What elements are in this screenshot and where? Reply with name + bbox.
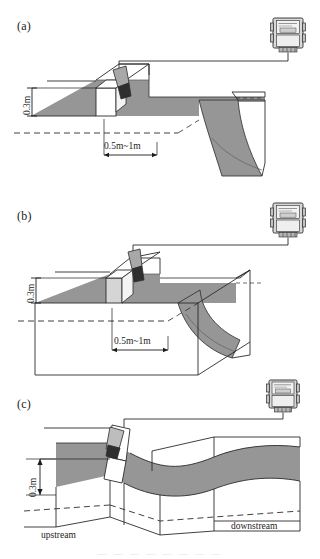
downstream-label: downstream [231, 521, 277, 531]
weir-notch-a [96, 88, 116, 116]
transmitter-meter-c [267, 380, 300, 412]
dimension-label-height-b: 0.3m [26, 284, 36, 303]
panel-a-drawing [0, 0, 320, 190]
channel-bed-dashed-c [24, 505, 110, 511]
caption-fragment: — — — — — — — — [0, 548, 320, 559]
dimension-label-distance-b: 0.5m~1m [114, 336, 151, 346]
flume-water-c [56, 443, 300, 496]
upstream-label: upstream [41, 530, 76, 540]
dimension-label-distance-a: 0.5m~1m [104, 141, 141, 151]
panel-b-drawing [0, 190, 320, 380]
dimension-0-5m-1m-a [104, 119, 157, 157]
signal-cable-c [124, 413, 283, 428]
dimension-label-height-a: 0.3m [22, 96, 32, 115]
weir-notch-b [106, 278, 122, 303]
panel-c: (c) [0, 375, 320, 559]
panel-b: (b) [0, 190, 320, 380]
transmitter-meter-a [271, 18, 306, 52]
transmitter-meter-b [271, 203, 306, 237]
dimension-label-height-c: 0.3m [28, 478, 38, 497]
nappe-a [199, 100, 262, 176]
signal-cable-a [119, 53, 288, 74]
panel-a: (a) [0, 0, 320, 190]
signal-cable-b [133, 238, 288, 257]
